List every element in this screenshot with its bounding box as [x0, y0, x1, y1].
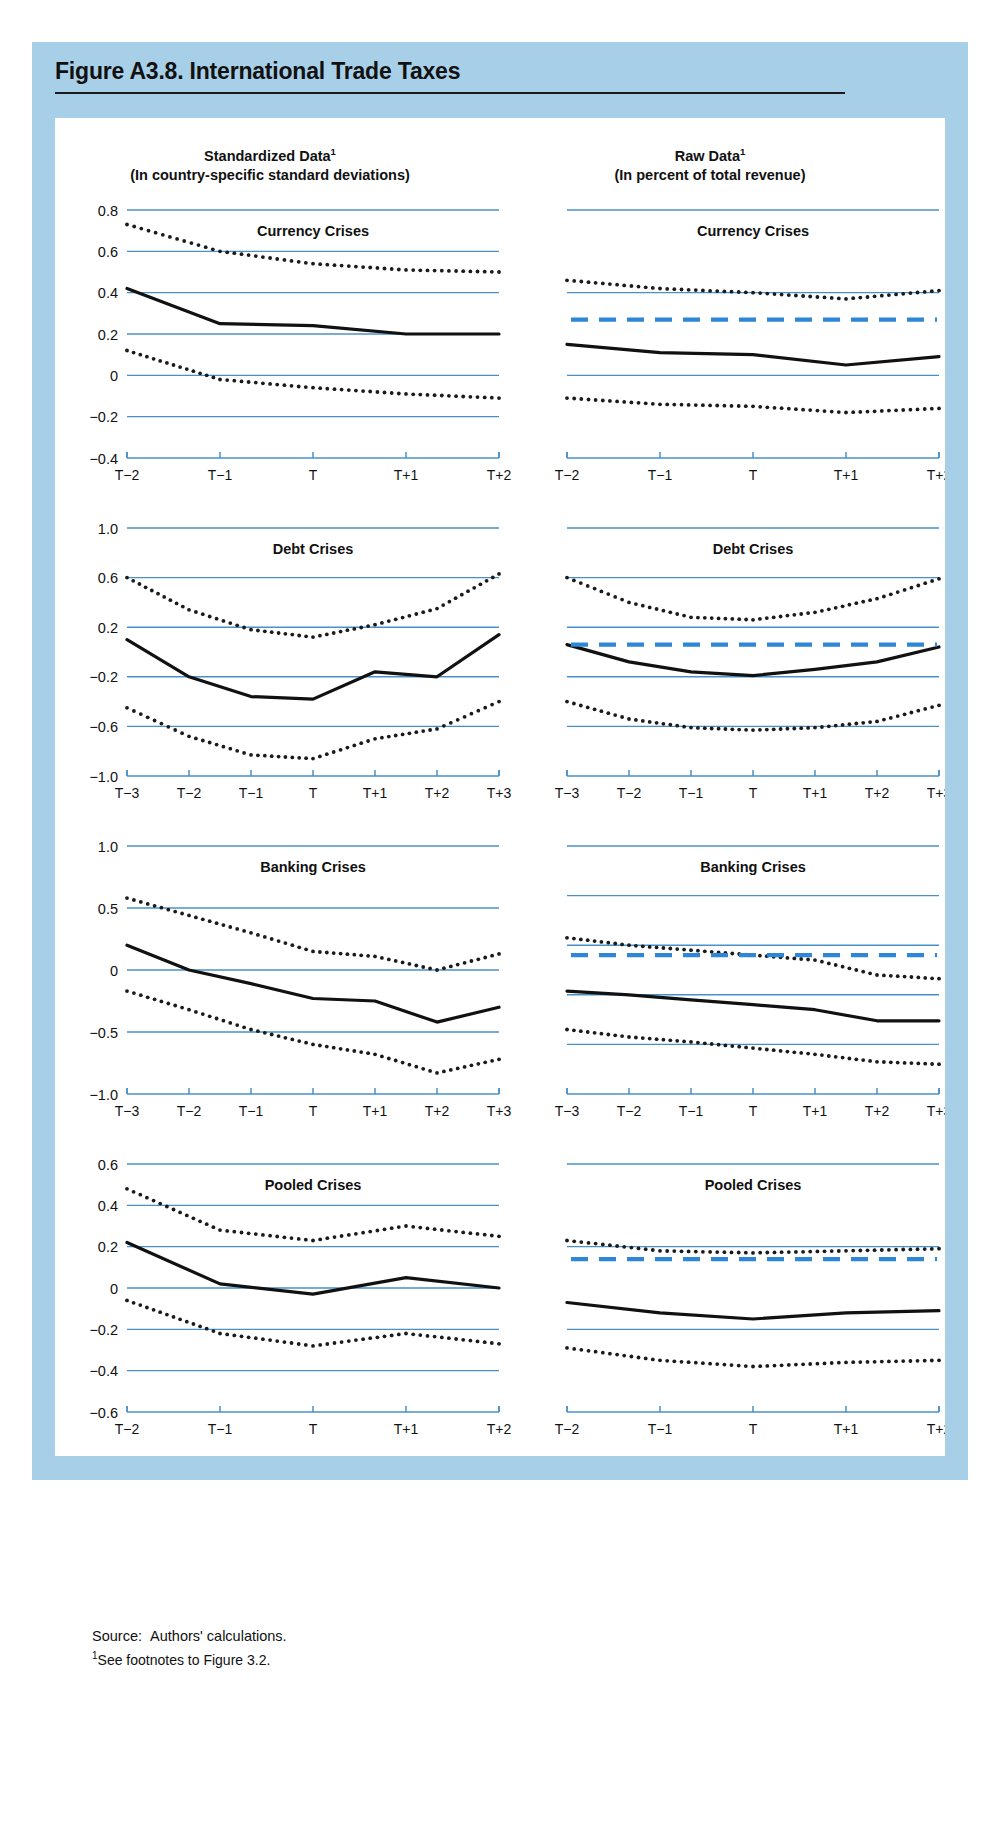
x-tick-label: T−2 [617, 785, 642, 801]
x-tick-label: T−1 [208, 1421, 233, 1437]
y-tick-label: 0.2 [98, 1239, 118, 1255]
series-band-dotted [565, 576, 941, 622]
x-tick-label: T [749, 1421, 758, 1437]
x-tick-label: T [309, 1421, 318, 1437]
x-tick-label: T+2 [425, 785, 450, 801]
series-band-dotted [125, 896, 501, 972]
column-heading-raw-mark: 1 [740, 146, 745, 157]
column-heading-standardized-mark: 1 [331, 146, 336, 157]
x-tick-label: T−2 [115, 467, 140, 483]
y-tick-label: −0.5 [89, 1025, 118, 1041]
y-tick-label: 1.0 [98, 521, 118, 537]
footnote-text: See footnotes to Figure 3.2. [98, 1651, 271, 1667]
series-band-dotted [565, 1239, 941, 1255]
series-band-dotted [125, 700, 501, 761]
x-tick-label: T+2 [425, 1103, 450, 1119]
series-band-dotted [125, 1187, 501, 1243]
panel-title: Banking Crises [260, 859, 366, 875]
x-tick-label: T−3 [555, 1103, 580, 1119]
x-tick-label: T [309, 1103, 318, 1119]
series-median-line [127, 1243, 499, 1295]
x-tick-label: T+3 [927, 1103, 945, 1119]
y-tick-label: 0.4 [98, 1198, 118, 1214]
x-tick-label: T+1 [363, 1103, 388, 1119]
series-band-dotted [565, 278, 941, 300]
x-tick-label: T+2 [865, 1103, 890, 1119]
footnote-line: 1See footnotes to Figure 3.2. [92, 1648, 287, 1671]
x-tick-label: T+2 [927, 1421, 945, 1437]
series-band-dotted [125, 1299, 501, 1348]
panel-title: Pooled Crises [705, 1177, 802, 1193]
series-median-line [567, 991, 939, 1021]
x-tick-label: T+1 [803, 1103, 828, 1119]
x-tick-label: T−1 [239, 1103, 264, 1119]
y-tick-label: −1.0 [89, 769, 118, 785]
x-tick-label: T+2 [487, 467, 512, 483]
y-tick-label: −0.4 [89, 1363, 118, 1379]
series-band-dotted [125, 572, 501, 639]
column-heading-standardized-title: Standardized Data [204, 148, 331, 164]
x-tick-label: T−2 [115, 1421, 140, 1437]
y-tick-label: 0.5 [98, 901, 118, 917]
panel-title: Currency Crises [697, 223, 809, 239]
column-heading-standardized: Standardized Data1 (In country-specific … [55, 146, 485, 185]
column-heading-raw-title: Raw Data [675, 148, 740, 164]
y-tick-label: 0 [110, 963, 118, 979]
x-tick-label: T+2 [865, 785, 890, 801]
panel-title: Pooled Crises [265, 1177, 362, 1193]
y-tick-label: −0.2 [89, 409, 118, 425]
x-tick-label: T−2 [177, 785, 202, 801]
series-band-dotted [565, 936, 941, 981]
y-tick-label: 0.6 [98, 244, 118, 260]
x-tick-label: T+1 [834, 467, 859, 483]
x-tick-label: T+3 [927, 785, 945, 801]
x-tick-label: T+1 [394, 1421, 419, 1437]
x-tick-label: T−1 [679, 1103, 704, 1119]
x-tick-label: T+1 [394, 467, 419, 483]
figure-page: Figure A3.8. International Trade Taxes S… [0, 0, 1000, 1822]
x-tick-label: T−2 [617, 1103, 642, 1119]
x-tick-label: T [749, 467, 758, 483]
y-tick-label: 0 [110, 1281, 118, 1297]
x-tick-label: T [749, 785, 758, 801]
x-tick-label: T+2 [487, 1421, 512, 1437]
x-tick-label: T−3 [115, 1103, 140, 1119]
x-tick-label: T+3 [487, 785, 512, 801]
source-label: Source: [92, 1628, 142, 1644]
series-band-dotted [125, 223, 501, 274]
x-tick-label: T−2 [555, 467, 580, 483]
x-tick-label: T−2 [177, 1103, 202, 1119]
series-median-line [127, 635, 499, 700]
series-median-line [567, 344, 939, 365]
y-tick-label: −1.0 [89, 1087, 118, 1103]
x-tick-label: T−2 [555, 1421, 580, 1437]
y-tick-label: 0.2 [98, 327, 118, 343]
x-tick-label: T+3 [487, 1103, 512, 1119]
figure-title: Figure A3.8. International Trade Taxes [55, 58, 460, 85]
title-rule [55, 92, 845, 94]
x-tick-label: T [309, 467, 318, 483]
y-tick-label: 0.6 [98, 570, 118, 586]
panel-title: Debt Crises [273, 541, 354, 557]
y-tick-label: 0.6 [98, 1157, 118, 1173]
series-median-line [127, 289, 499, 335]
y-tick-label: 0 [110, 368, 118, 384]
x-tick-label: T−3 [115, 785, 140, 801]
series-band-dotted [565, 700, 941, 732]
series-band-dotted [565, 396, 941, 414]
series-median-line [127, 945, 499, 1022]
panel-title: Debt Crises [713, 541, 794, 557]
y-tick-label: 1.0 [98, 839, 118, 855]
y-tick-label: 0.4 [98, 285, 118, 301]
x-tick-label: T−3 [555, 785, 580, 801]
column-heading-raw: Raw Data1 (In percent of total revenue) [495, 146, 925, 185]
x-tick-label: T+1 [363, 785, 388, 801]
x-tick-label: T−1 [648, 467, 673, 483]
x-tick-label: T [309, 785, 318, 801]
y-tick-label: −0.4 [89, 451, 118, 467]
source-line: Source: Authors' calculations. [92, 1626, 287, 1648]
column-heading-standardized-sub: (In country-specific standard deviations… [55, 166, 485, 185]
series-band-dotted [565, 1346, 941, 1368]
x-tick-label: T−1 [239, 785, 264, 801]
y-tick-label: −0.2 [89, 669, 118, 685]
